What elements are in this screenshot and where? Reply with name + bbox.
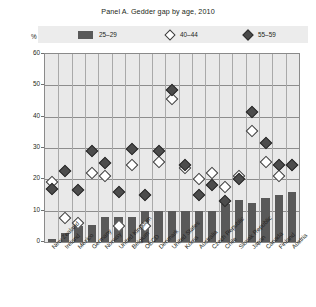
gridline-vertical (85, 54, 86, 242)
bar (221, 204, 229, 242)
gridline-horizontal (45, 117, 299, 118)
data-point-55-59 (152, 145, 165, 158)
gridline-horizontal (45, 179, 299, 180)
y-axis-tick-label: 10 (14, 206, 40, 213)
bar (61, 233, 69, 242)
y-axis-tick-label: 30 (14, 143, 40, 150)
gridline-vertical (165, 54, 166, 242)
gridline-vertical (152, 54, 153, 242)
data-point-40-44 (59, 212, 72, 225)
gridline-vertical (179, 54, 180, 242)
data-point-55-59 (206, 179, 219, 192)
bar (248, 203, 256, 242)
data-point-55-59 (112, 185, 125, 198)
data-point-40-44 (85, 167, 98, 180)
bar (154, 211, 162, 242)
y-axis-unit-label: % (31, 33, 37, 40)
y-axis-tick-label: 20 (14, 174, 40, 181)
gridline-vertical (72, 54, 73, 242)
gridline-vertical (192, 54, 193, 242)
legend-label-55-59: 55–59 (258, 31, 276, 38)
legend-label-25-29: 25–29 (99, 31, 117, 38)
bar (195, 211, 203, 242)
data-point-55-59 (139, 188, 152, 201)
gridline-vertical (98, 54, 99, 242)
bar (168, 211, 176, 242)
data-point-40-44 (246, 124, 259, 137)
gridline-vertical (112, 54, 113, 242)
bar (88, 225, 96, 242)
data-point-40-44 (192, 173, 205, 186)
data-point-55-59 (286, 159, 299, 172)
y-axis-tick-label: 50 (14, 80, 40, 87)
data-point-55-59 (85, 145, 98, 158)
bar (181, 211, 189, 242)
bar (275, 195, 283, 242)
filled-diamond-icon (242, 29, 253, 40)
plot-area (44, 53, 300, 243)
y-axis-tick-mark (41, 84, 44, 85)
bar (128, 217, 136, 242)
data-point-40-44 (126, 159, 139, 172)
y-axis-tick-mark (41, 116, 44, 117)
bar (261, 198, 269, 242)
data-point-40-44 (99, 170, 112, 183)
y-axis-tick-label: 60 (14, 49, 40, 56)
filled-square-icon (78, 31, 93, 39)
bar (101, 217, 109, 242)
data-point-55-59 (273, 159, 286, 172)
y-axis-tick-mark (41, 53, 44, 54)
data-point-40-44 (206, 167, 219, 180)
gridline-vertical (232, 54, 233, 242)
gridline-horizontal (45, 148, 299, 149)
bar (48, 239, 56, 242)
bar (235, 200, 243, 242)
gridline-vertical (259, 54, 260, 242)
y-axis-tick-label: 40 (14, 112, 40, 119)
gridline-vertical (246, 54, 247, 242)
chart-panel: Panel A. Gedder gap by age, 2010 % 25–29… (0, 0, 316, 307)
legend-item-40-44: 40–44 (166, 31, 198, 39)
data-point-55-59 (59, 165, 72, 178)
bar (208, 211, 216, 242)
gridline-vertical (272, 54, 273, 242)
gridline-vertical (58, 54, 59, 242)
y-axis-tick-mark (41, 178, 44, 179)
data-point-55-59 (192, 188, 205, 201)
y-axis-tick-label: 0 (14, 237, 40, 244)
legend-item-25-29: 25–29 (78, 31, 117, 39)
open-diamond-icon (164, 29, 175, 40)
data-point-40-44 (259, 156, 272, 169)
data-point-55-59 (72, 184, 85, 197)
legend-label-40-44: 40–44 (180, 31, 198, 38)
data-point-40-44 (273, 170, 286, 183)
data-point-55-59 (126, 143, 139, 156)
y-axis-tick-mark (41, 147, 44, 148)
y-axis-tick-mark (41, 241, 44, 242)
data-point-40-44 (219, 181, 232, 194)
gridline-vertical (219, 54, 220, 242)
bar (288, 192, 296, 242)
chart-title: Panel A. Gedder gap by age, 2010 (0, 7, 316, 16)
data-point-55-59 (99, 157, 112, 170)
gridline-vertical (205, 54, 206, 242)
y-axis-tick-mark (41, 210, 44, 211)
gridline-vertical (139, 54, 140, 242)
legend-item-55-59: 55–59 (244, 31, 276, 39)
chart-legend: 25–29 40–44 55–59 (38, 26, 308, 43)
gridline-vertical (286, 54, 287, 242)
